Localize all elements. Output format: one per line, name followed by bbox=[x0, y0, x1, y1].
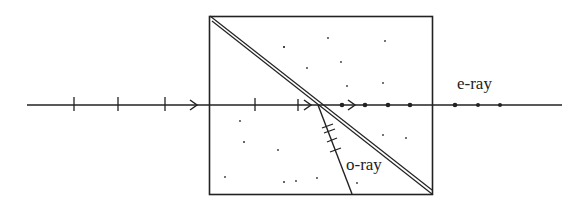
incident-polarization-ticks bbox=[74, 97, 298, 111]
o-ray-polarization-ticks bbox=[322, 124, 341, 152]
prism-diagram: e-ray o-ray bbox=[0, 0, 583, 206]
o-ray-label: o-ray bbox=[346, 155, 382, 174]
e-ray-label: e-ray bbox=[457, 74, 492, 93]
